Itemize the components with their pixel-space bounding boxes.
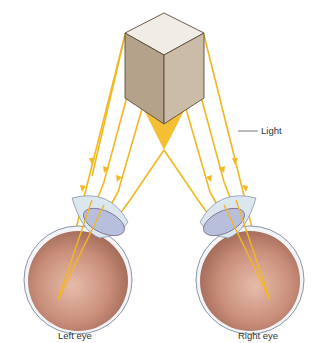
right-eye-label: Right eye xyxy=(238,330,278,341)
left-eye-label: Left eye xyxy=(58,330,92,341)
diagram-canvas xyxy=(0,0,328,343)
light-label: Light xyxy=(261,125,282,136)
binocular-vision-diagram: Light Left eye Right eye xyxy=(0,0,328,343)
left-eye xyxy=(24,196,132,334)
cube xyxy=(125,13,204,124)
